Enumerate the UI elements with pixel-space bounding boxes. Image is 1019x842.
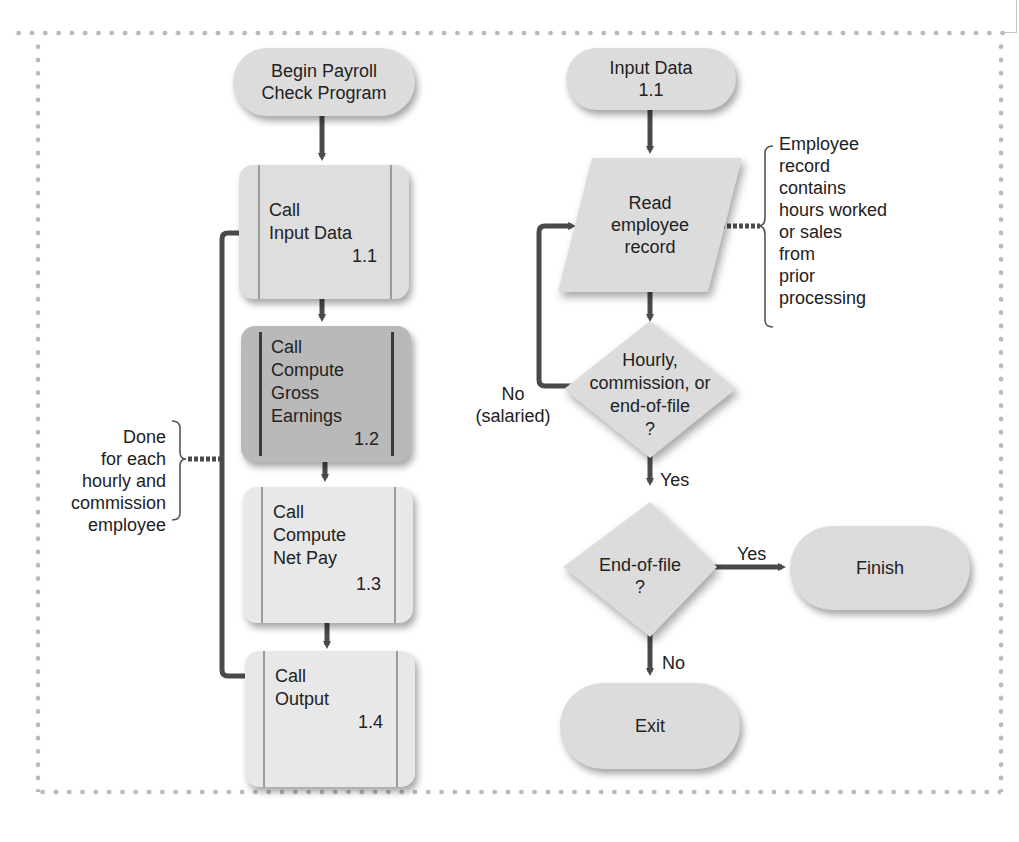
decision-eof-label: End-of-file?	[580, 554, 700, 598]
module-label: CallInput Data	[269, 199, 352, 245]
no-label-2: No	[662, 652, 685, 674]
yes-label-2: Yes	[737, 543, 766, 565]
read-record-label: Reademployeerecord	[590, 192, 710, 258]
module-number: 1.2	[354, 428, 379, 451]
module-bar-right	[396, 651, 398, 787]
module-bar-left	[259, 332, 262, 456]
module-compute-gross-earnings: CallCompute GrossEarnings 1.2	[241, 326, 411, 462]
begin-line2: Check Program	[261, 82, 386, 104]
exit-terminal: Exit	[560, 683, 740, 769]
module-bar-right	[390, 165, 392, 299]
module-number: 1.4	[358, 711, 383, 734]
decision-hourly-label: Hourly,commission, or end-of-file?	[570, 349, 730, 441]
module-bar-right	[391, 332, 394, 456]
input-data-line1: Input Data	[609, 57, 692, 79]
loop-annotation: Donefor each hourly andcommission employ…	[40, 426, 166, 536]
no-salaried-label: No(salaried)	[468, 383, 558, 427]
input-data-terminal: Input Data 1.1	[566, 48, 736, 110]
module-bar-left	[261, 487, 263, 623]
finish-terminal: Finish	[790, 526, 970, 610]
exit-label: Exit	[635, 715, 665, 737]
yes-label-1: Yes	[660, 469, 689, 491]
module-bar-left	[263, 651, 265, 787]
finish-label: Finish	[856, 557, 904, 579]
input-data-line2: 1.1	[638, 79, 663, 101]
module-bar-right	[394, 487, 396, 623]
module-input-data: CallInput Data 1.1	[239, 165, 409, 299]
begin-line1: Begin Payroll	[271, 60, 377, 82]
module-label: CallCompute GrossEarnings	[271, 336, 344, 428]
begin-payroll-terminal: Begin Payroll Check Program	[233, 48, 415, 116]
module-output: CallOutput 1.4	[245, 651, 415, 787]
module-number: 1.3	[356, 573, 381, 596]
module-label: CallCompute Net Pay	[273, 501, 346, 570]
module-label: CallOutput	[275, 665, 329, 711]
record-annotation: Employeerecord containshours worked or s…	[779, 133, 887, 309]
module-compute-net-pay: CallCompute Net Pay 1.3	[243, 487, 413, 623]
module-number: 1.1	[352, 245, 377, 268]
module-bar-left	[258, 165, 260, 299]
